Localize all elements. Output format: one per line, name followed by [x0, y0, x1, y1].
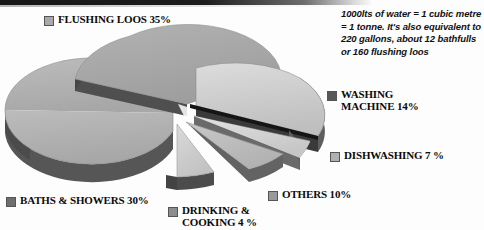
legend-item-dishwashing: DISHWASHING 7 %: [330, 149, 444, 162]
legend-item-drinking-cooking: DRINKING & COOKING 4 %: [168, 204, 257, 228]
legend-label-baths-showers: BATHS & SHOWERS 30%: [20, 194, 149, 206]
legend-label-others: OTHERS 10%: [282, 188, 351, 200]
water-usage-pie-chart-figure: FLUSHING LOOS 35% WASHING MACHINE 14% DI…: [0, 0, 484, 230]
legend-label-dishwashing: DISHWASHING 7 %: [344, 149, 444, 161]
legend-swatch-drinking-cooking: [168, 207, 178, 217]
legend-swatch-flushing-loos: [44, 16, 54, 26]
legend-label-drinking-cooking-line2: COOKING 4 %: [182, 216, 257, 228]
annotation-line-1: 1000lts of water = 1 cubic metre: [341, 8, 483, 21]
legend-label-washing-machine-line2: MACHINE 14%: [341, 100, 419, 112]
legend-item-baths-showers: BATHS & SHOWERS 30%: [6, 194, 149, 207]
legend-label-drinking-cooking-line1: DRINKING &: [182, 204, 250, 216]
legend-item-washing-machine: WASHING MACHINE 14%: [327, 88, 419, 112]
legend-swatch-washing-machine: [327, 91, 337, 101]
legend-label-flushing-loos: FLUSHING LOOS 35%: [58, 13, 171, 25]
annotation-line-3: 220 gallons, about 12 bathfulls: [341, 33, 483, 46]
legend-label-drinking-cooking: DRINKING & COOKING 4 %: [182, 204, 257, 228]
legend-item-flushing-loos: FLUSHING LOOS 35%: [44, 13, 171, 26]
legend-item-others: OTHERS 10%: [268, 188, 351, 201]
legend-label-washing-machine: WASHING MACHINE 14%: [341, 88, 419, 112]
annotation-line-2: = 1 tonne. It's also equivalent to: [341, 21, 483, 34]
legend-label-washing-machine-line1: WASHING: [341, 88, 393, 100]
annotation-text: 1000lts of water = 1 cubic metre = 1 ton…: [341, 8, 483, 58]
legend-swatch-others: [268, 191, 278, 201]
legend-swatch-baths-showers: [6, 197, 16, 207]
legend-swatch-dishwashing: [330, 152, 340, 162]
annotation-line-4: or 160 flushing loos: [341, 46, 483, 59]
